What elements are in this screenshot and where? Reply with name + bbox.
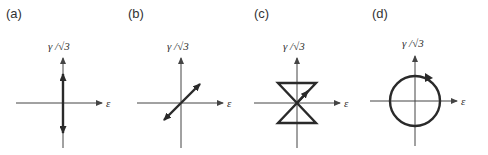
panel-a-ylabel: γ /√3 <box>48 40 70 52</box>
panel-b-path-down <box>164 103 181 120</box>
panel-d: (d) γ /√3 ε <box>370 6 466 146</box>
panel-a-label: (a) <box>6 6 22 21</box>
panel-b-label: (b) <box>128 6 144 21</box>
panel-b-xlabel: ε <box>227 97 232 109</box>
strain-path-diagrams: (a) γ /√3 ε (b) γ /√3 ε (c) γ /√3 ε (d) … <box>0 0 488 155</box>
panel-d-label: (d) <box>372 6 388 21</box>
panel-c-path-arrow <box>297 91 308 103</box>
panel-c-label: (c) <box>254 6 269 21</box>
panel-d-ylabel: γ /√3 <box>402 37 424 49</box>
panel-a-xlabel: ε <box>106 97 111 109</box>
panel-b-path-up <box>181 84 200 103</box>
panel-d-xlabel: ε <box>461 95 466 107</box>
panel-b: (b) γ /√3 ε <box>128 6 232 148</box>
panel-c-ylabel: γ /√3 <box>283 40 305 52</box>
panel-b-ylabel: γ /√3 <box>167 40 189 52</box>
panel-a: (a) γ /√3 ε <box>6 6 111 148</box>
panel-c: (c) γ /√3 ε <box>254 6 349 148</box>
panel-c-xlabel: ε <box>344 97 349 109</box>
